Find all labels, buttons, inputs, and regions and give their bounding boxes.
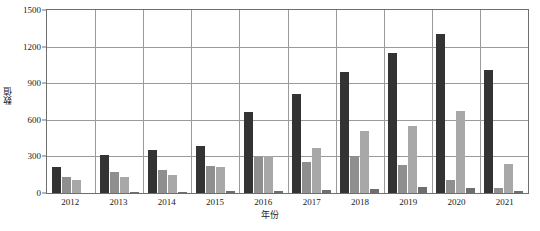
bar-series-3-2021 [504,164,513,193]
bar-series-3-2020 [456,111,465,193]
bar-series-2-2016 [254,157,263,193]
bar-series-4-2017 [322,190,331,193]
x-axis-tick-group: 2012201320142015201620172018201920202021 [46,196,529,210]
bar-series-4-2015 [226,191,235,193]
bar-series-2-2015 [206,166,215,193]
bar-series-4-2014 [178,192,187,193]
bar-series-4-2013 [130,192,139,193]
bar-group-2018 [336,10,384,193]
y-axis-tick-label: 0 [37,189,42,198]
y-axis-tick-label: 300 [28,152,42,161]
bar-series-3-2014 [168,175,177,193]
bar-series-4-2018 [370,189,379,193]
bar-series-1-2013 [100,155,109,193]
bar-group-2016 [239,10,287,193]
x-axis-title: 年份 [0,210,540,221]
bar-series-1-2015 [196,146,205,193]
y-axis-tick-label: 1200 [23,42,41,51]
bar-group-2012 [47,10,95,193]
bar-series-1-2021 [484,70,493,193]
x-axis-tick-label: 2020 [432,196,480,210]
bar-series-2-2018 [350,156,359,193]
x-axis-tick-label: 2015 [191,196,239,210]
x-axis-tick-label: 2013 [94,196,142,210]
bar-series-1-2019 [388,53,397,193]
bar-series-3-2013 [120,177,129,193]
y-axis-tick-group: 030060090012001500 [0,0,46,203]
bar-series-2-2014 [158,170,167,193]
bar-series-1-2018 [340,72,349,193]
bar-series-2-2017 [302,162,311,193]
bar-series-4-2016 [274,191,283,193]
bar-series-2-2020 [446,180,455,193]
bar-group-2019 [384,10,432,193]
bar-series-3-2018 [360,131,369,193]
bar-series-3-2016 [264,156,273,193]
x-axis-tick-label: 2017 [287,196,335,210]
bar-series-4-2019 [418,187,427,193]
bar-series-2-2021 [494,188,503,193]
bar-series-4-2020 [466,188,475,193]
bar-series-3-2015 [216,167,225,193]
y-axis-tick-label: 900 [28,79,42,88]
bar-group-layer [47,10,528,193]
bar-series-2-2019 [398,165,407,193]
bar-group-2020 [432,10,480,193]
bar-series-1-2012 [52,167,61,193]
bar-series-2-2013 [110,172,119,193]
bar-series-3-2019 [408,126,417,193]
bar-chart: 数值 030060090012001500 201220132014201520… [0,0,540,231]
x-axis-tick-label: 2019 [384,196,432,210]
bar-series-4-2021 [514,191,523,193]
bar-group-2015 [191,10,239,193]
y-axis-tick-label: 1500 [23,6,41,15]
plot-area [46,9,529,194]
y-axis-tick-label: 600 [28,115,42,124]
x-axis-tick-label: 2016 [239,196,287,210]
bar-series-1-2014 [148,150,157,193]
bar-series-1-2016 [244,112,253,193]
x-axis-tick-label: 2018 [336,196,384,210]
x-axis-tick-label: 2012 [46,196,94,210]
x-axis-tick-label: 2014 [143,196,191,210]
bar-series-1-2017 [292,94,301,193]
bar-group-2013 [95,10,143,193]
bar-group-2017 [287,10,335,193]
bar-series-1-2020 [436,34,445,193]
bar-series-2-2012 [62,177,71,193]
bar-series-3-2012 [72,180,81,193]
bar-series-3-2017 [312,148,321,193]
x-axis-tick-label: 2021 [481,196,529,210]
bar-group-2021 [480,10,528,193]
bar-group-2014 [143,10,191,193]
